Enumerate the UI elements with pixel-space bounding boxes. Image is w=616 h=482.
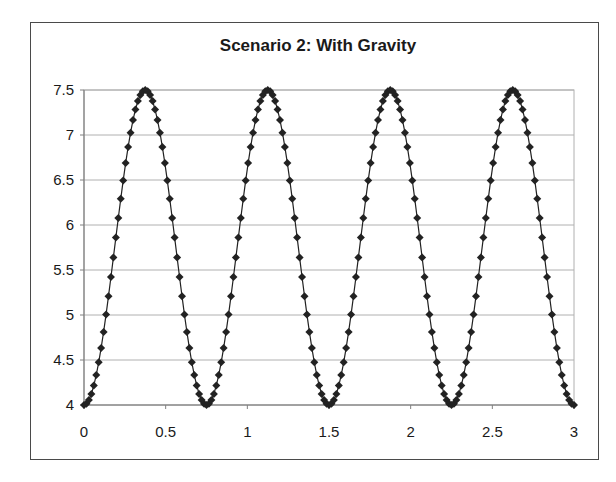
data-point-marker bbox=[337, 371, 345, 379]
data-point-marker bbox=[90, 382, 98, 390]
data-point-marker bbox=[107, 273, 115, 281]
x-tick-label: 3 bbox=[570, 423, 578, 440]
data-point-marker bbox=[425, 311, 433, 319]
data-point-marker bbox=[301, 292, 309, 300]
data-point-marker bbox=[281, 143, 289, 151]
data-point-marker bbox=[114, 214, 122, 222]
data-point-marker bbox=[560, 382, 568, 390]
data-series bbox=[80, 86, 578, 409]
data-point-marker bbox=[247, 143, 255, 151]
data-point-marker bbox=[457, 382, 465, 390]
data-point-marker bbox=[303, 311, 311, 319]
data-point-marker bbox=[347, 311, 355, 319]
data-point-marker bbox=[403, 143, 411, 151]
data-point-marker bbox=[185, 344, 193, 352]
data-point-marker bbox=[286, 176, 294, 184]
data-point-marker bbox=[151, 105, 159, 113]
data-point-marker bbox=[242, 176, 250, 184]
data-point-marker bbox=[519, 105, 527, 113]
data-point-marker bbox=[154, 116, 162, 124]
data-point-marker bbox=[423, 292, 431, 300]
x-tick-label: 2 bbox=[406, 423, 414, 440]
data-point-marker bbox=[413, 214, 421, 222]
data-point-marker bbox=[533, 195, 541, 203]
data-point-marker bbox=[229, 273, 237, 281]
data-point-marker bbox=[499, 105, 507, 113]
x-tick-label: 0.5 bbox=[155, 423, 176, 440]
data-point-marker bbox=[362, 195, 370, 203]
data-point-marker bbox=[354, 253, 362, 261]
data-point-marker bbox=[352, 273, 360, 281]
data-point-marker bbox=[460, 371, 468, 379]
data-point-marker bbox=[105, 292, 113, 300]
chart-plot: 44.555.566.577.5 00.511.522.53 bbox=[0, 0, 616, 482]
data-point-marker bbox=[222, 328, 230, 336]
x-tick-label: 2.5 bbox=[482, 423, 503, 440]
data-point-marker bbox=[546, 292, 554, 300]
data-point-marker bbox=[298, 273, 306, 281]
y-tick-label: 6.5 bbox=[53, 171, 74, 188]
data-point-marker bbox=[296, 253, 304, 261]
data-point-marker bbox=[183, 328, 191, 336]
gridlines bbox=[84, 90, 574, 405]
data-point-marker bbox=[232, 253, 240, 261]
data-point-marker bbox=[369, 143, 377, 151]
data-point-marker bbox=[102, 311, 110, 319]
data-point-marker bbox=[215, 371, 223, 379]
y-tick-label: 7.5 bbox=[53, 81, 74, 98]
data-point-marker bbox=[335, 382, 343, 390]
data-point-marker bbox=[374, 116, 382, 124]
data-point-marker bbox=[168, 214, 176, 222]
x-tick-label: 1.5 bbox=[319, 423, 340, 440]
data-point-marker bbox=[117, 195, 125, 203]
y-tick-label: 7 bbox=[66, 126, 74, 143]
data-point-marker bbox=[274, 105, 282, 113]
data-point-marker bbox=[239, 195, 247, 203]
data-point-marker bbox=[550, 328, 558, 336]
plot-area bbox=[84, 90, 574, 405]
data-point-marker bbox=[399, 116, 407, 124]
data-point-marker bbox=[161, 159, 169, 167]
data-point-marker bbox=[276, 116, 284, 124]
data-point-marker bbox=[543, 273, 551, 281]
data-point-marker bbox=[528, 159, 536, 167]
data-point-marker bbox=[482, 214, 490, 222]
data-point-marker bbox=[345, 328, 353, 336]
data-point-marker bbox=[421, 273, 429, 281]
y-tick-label: 6 bbox=[66, 216, 74, 233]
data-point-marker bbox=[541, 253, 549, 261]
y-axis: 44.555.566.577.5 bbox=[53, 81, 84, 413]
data-point-marker bbox=[438, 382, 446, 390]
data-point-marker bbox=[357, 234, 365, 242]
data-point-marker bbox=[180, 311, 188, 319]
data-point-marker bbox=[119, 176, 127, 184]
data-point-marker bbox=[305, 328, 313, 336]
data-point-marker bbox=[220, 344, 228, 352]
data-point-marker bbox=[479, 234, 487, 242]
data-point-marker bbox=[477, 253, 485, 261]
data-point-marker bbox=[97, 344, 105, 352]
data-point-marker bbox=[536, 214, 544, 222]
data-point-marker bbox=[430, 344, 438, 352]
data-point-marker bbox=[131, 105, 139, 113]
data-point-marker bbox=[100, 328, 108, 336]
data-point-marker bbox=[178, 292, 186, 300]
data-point-marker bbox=[548, 311, 556, 319]
data-point-marker bbox=[396, 105, 404, 113]
y-tick-label: 5 bbox=[66, 306, 74, 323]
data-point-marker bbox=[472, 292, 480, 300]
data-point-marker bbox=[308, 344, 316, 352]
data-point-marker bbox=[163, 176, 171, 184]
data-point-marker bbox=[497, 116, 505, 124]
data-point-marker bbox=[237, 214, 245, 222]
data-point-marker bbox=[283, 159, 291, 167]
y-tick-label: 4 bbox=[66, 396, 74, 413]
data-point-marker bbox=[376, 105, 384, 113]
y-tick-label: 5.5 bbox=[53, 261, 74, 278]
data-point-marker bbox=[171, 234, 179, 242]
data-point-marker bbox=[489, 159, 497, 167]
data-point-marker bbox=[166, 195, 174, 203]
data-point-marker bbox=[288, 195, 296, 203]
data-point-marker bbox=[406, 159, 414, 167]
data-point-marker bbox=[109, 253, 117, 261]
